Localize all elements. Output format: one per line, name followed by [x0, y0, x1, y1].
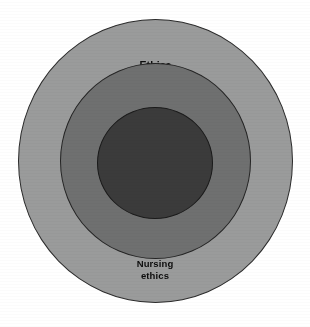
concentric-circles-diagram: Ethics Bioethics Nursing ethics [0, 0, 310, 327]
circle-nursing-ethics: Nursing ethics [97, 107, 213, 219]
circle-label-nursing-ethics: Nursing ethics [98, 258, 212, 283]
